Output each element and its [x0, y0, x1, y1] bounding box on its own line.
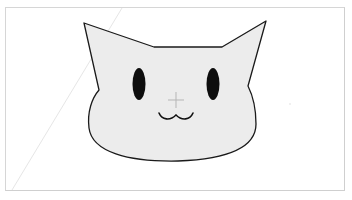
cat-left-eye [133, 68, 146, 100]
cat-right-eye [207, 68, 220, 100]
stray-mark [289, 103, 291, 105]
cat-head-shape[interactable] [84, 21, 266, 161]
canvas-artwork [0, 0, 352, 200]
